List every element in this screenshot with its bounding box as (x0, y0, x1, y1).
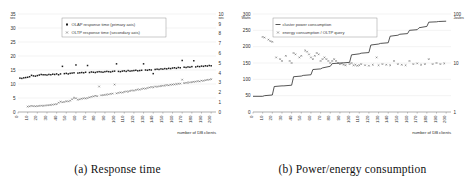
chart-power-energy: 050100150200250300 110100 01020304050607… (235, 0, 470, 152)
data-point-cross (412, 63, 414, 65)
x-axis-tick: 40 (288, 115, 293, 120)
data-point-cross (31, 105, 33, 107)
x-axis-tick: 100 (111, 115, 116, 123)
axes-b (253, 112, 451, 114)
data-point-square (44, 74, 46, 76)
data-point-cross (201, 80, 203, 82)
data-point-square (31, 75, 33, 77)
data-point-square (54, 74, 56, 76)
data-point-cross (409, 60, 411, 62)
axes-a (18, 112, 216, 114)
data-point-cross (145, 88, 147, 90)
data-point-cross (129, 90, 131, 92)
data-point-cross (29, 105, 31, 107)
data-point-cross (382, 63, 384, 65)
x-axis-tick: 60 (307, 115, 312, 120)
x-axis-tick: 60 (72, 115, 77, 120)
data-point-square (75, 64, 77, 66)
data-point-square (106, 71, 108, 73)
y-axis-right-tick: 9 (219, 22, 222, 27)
data-point-square (79, 72, 81, 74)
data-point-cross (197, 80, 199, 82)
data-point-square (112, 71, 114, 73)
panel-power-energy: 050100150200250300 110100 01020304050607… (235, 0, 470, 185)
data-point-cross (397, 63, 399, 65)
x-axis-tick: 170 (178, 115, 183, 123)
data-point-cross (295, 54, 297, 56)
x-axis-tick: 20 (33, 115, 38, 120)
data-point-cross (102, 94, 104, 96)
x-axis-tick: 180 (188, 115, 193, 123)
y-axis-right-tick: 4 (219, 71, 222, 76)
y-axis-left-labels-a: 05101520253035 (10, 12, 16, 115)
data-point-cross (58, 102, 60, 104)
data-point-cross (120, 92, 122, 94)
data-point-square (60, 73, 62, 75)
data-point-cross (376, 57, 378, 59)
data-point-cross (123, 91, 125, 93)
data-point-cross (432, 63, 434, 65)
data-point-cross (314, 55, 316, 57)
data-point-square (162, 68, 164, 70)
data-point-square (91, 71, 93, 73)
data-point-cross (168, 84, 170, 86)
data-point-square (21, 78, 23, 80)
y-axis-left-tick: 100 (243, 77, 251, 82)
data-point-cross (125, 91, 127, 93)
data-point-cross (110, 93, 112, 95)
x-axis-tick: 20 (268, 115, 273, 120)
data-point-cross (206, 79, 208, 81)
data-point-cross (174, 84, 176, 86)
data-point-cross (401, 64, 403, 66)
data-point-cross (67, 101, 69, 103)
data-point-square (191, 66, 193, 68)
data-point-square (29, 76, 31, 78)
data-point-cross (92, 95, 94, 97)
data-point-cross (372, 64, 374, 66)
x-axis-tick: 150 (159, 115, 164, 123)
x-axis-tick: 150 (394, 115, 399, 123)
data-point-square (183, 66, 185, 68)
y-axis-left-unit-b: Watts (241, 16, 250, 20)
data-point-square (108, 71, 110, 73)
data-point-cross (195, 81, 197, 83)
y-axis-right-tick: 7 (219, 41, 222, 46)
data-point-square (66, 73, 68, 75)
data-point-cross (420, 64, 422, 66)
data-point-cross (310, 57, 312, 59)
data-point-square (181, 60, 183, 62)
data-point-cross (335, 60, 337, 62)
data-point-square (151, 69, 153, 71)
data-point-square (73, 72, 75, 74)
data-point-square (166, 68, 168, 70)
data-point-square (174, 67, 176, 69)
y-axis-right-tick: 8 (219, 31, 222, 36)
data-point-square (33, 75, 35, 77)
x-axis-tick: 50 (62, 115, 67, 120)
data-point-cross (203, 80, 205, 82)
data-point-cross (71, 98, 73, 100)
data-point-cross (264, 37, 266, 39)
y-axis-left-tick: 20 (10, 54, 16, 59)
data-point-cross (318, 54, 320, 56)
data-point-cross (324, 57, 326, 59)
data-point-cross (306, 51, 308, 53)
data-point-square (64, 73, 66, 75)
data-point-square (141, 70, 143, 72)
data-point-cross (46, 104, 48, 106)
data-point-cross (193, 81, 195, 83)
data-point-cross (33, 105, 35, 107)
data-point-cross (94, 95, 96, 97)
data-point-square (100, 71, 102, 73)
y-axis-left-tick: 5 (13, 96, 16, 101)
data-point-cross (65, 100, 67, 102)
data-point-cross (116, 93, 118, 95)
x-axis-tick: 90 (101, 115, 106, 120)
data-point-square (35, 75, 37, 77)
x-axis-tick: 130 (140, 115, 145, 123)
x-axis-tick: 200 (207, 115, 212, 123)
legend-label: OLTP response time (secondary axis) (72, 30, 141, 35)
data-point-cross (40, 105, 42, 107)
data-point-square (205, 65, 207, 67)
data-point-square (158, 69, 160, 71)
